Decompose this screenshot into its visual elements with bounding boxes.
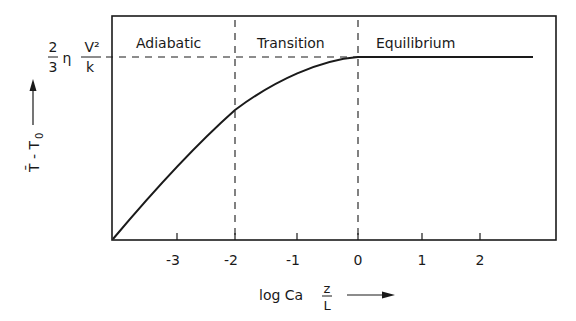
svg-text:V²: V² — [84, 39, 99, 55]
svg-text:log Ca: log Ca — [259, 287, 303, 303]
svg-text:2: 2 — [49, 39, 58, 55]
svg-text:T̄ - T: T̄ - T — [25, 140, 42, 173]
region-label-adiabatic: Adiabatic — [136, 35, 201, 51]
svg-text:η: η — [63, 50, 72, 66]
x-tick-label: 1 — [418, 252, 427, 268]
x-axis-label: log Ca z L — [259, 281, 395, 313]
x-ticks — [177, 233, 480, 240]
chart: -3 -2 -1 0 1 2 Adiabatic Transition Equi… — [0, 0, 576, 321]
svg-text:L: L — [323, 298, 331, 313]
y-axis-label: T̄ - T 0 — [25, 79, 45, 173]
x-tick-label: 0 — [354, 252, 363, 268]
x-tick-label: -3 — [166, 252, 180, 268]
svg-text:z: z — [324, 281, 331, 296]
svg-text:k: k — [86, 59, 95, 75]
svg-text:0: 0 — [34, 133, 45, 139]
data-curve — [113, 57, 533, 239]
y-reference-label: 2 3 η V² k — [48, 39, 101, 75]
svg-text:3: 3 — [49, 59, 58, 75]
x-tick-label: 2 — [476, 252, 485, 268]
x-tick-label: -2 — [224, 252, 238, 268]
x-tick-label: -1 — [286, 252, 300, 268]
region-label-transition: Transition — [256, 35, 325, 51]
region-label-equilibrium: Equilibrium — [376, 35, 455, 51]
